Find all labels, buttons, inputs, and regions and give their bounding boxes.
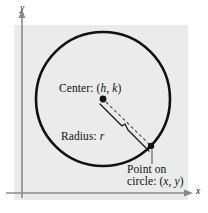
- point-label-suffix: ): [180, 175, 184, 187]
- point-on-circle-label: Point on circle: (x, y): [127, 163, 184, 188]
- point-label-line2: circle: (x, y): [127, 175, 184, 187]
- radius-label: Radius: r: [61, 130, 104, 142]
- center-label: Center: (h, k): [59, 82, 121, 94]
- center-point-marker: [100, 96, 107, 103]
- center-label-suffix: ): [118, 82, 122, 94]
- radius-label-r: r: [100, 130, 105, 142]
- point-label-prefix: circle: (: [127, 175, 163, 187]
- x-axis-label: x: [196, 186, 200, 196]
- x-axis-arrow-icon: [184, 190, 193, 197]
- circle-point-marker: [148, 143, 154, 149]
- y-axis-label: y: [20, 3, 24, 13]
- circle-diagram: Center: (h, k) Radius: r Point on circle…: [0, 0, 208, 213]
- radius-label-prefix: Radius:: [61, 130, 100, 142]
- point-label-line1: Point on: [127, 163, 184, 175]
- center-label-prefix: Center: (: [59, 82, 100, 94]
